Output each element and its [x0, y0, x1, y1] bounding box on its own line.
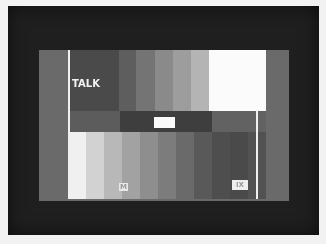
mid-bar-0	[70, 111, 120, 132]
low-bar-6	[176, 132, 194, 199]
low-bar-5	[158, 132, 176, 199]
low-bar-4	[140, 132, 158, 199]
indicator-box-label: IX	[232, 180, 248, 190]
monitor-screen: TALK 1 M IX	[39, 50, 289, 201]
low-bar-1	[86, 132, 104, 199]
low-bar-8	[212, 132, 230, 199]
top-bar-1	[119, 50, 136, 111]
top-bar-3	[155, 50, 173, 111]
low-bar-7	[194, 132, 212, 199]
talk-label: TALK	[72, 78, 100, 89]
channel-one-label: 1	[72, 183, 77, 191]
left-vertical-line	[68, 50, 70, 199]
m-label: M	[119, 183, 128, 191]
center-white-box	[154, 117, 175, 128]
top-bar-6	[209, 50, 266, 111]
top-bar-2	[136, 50, 155, 111]
low-bar-0	[68, 132, 86, 199]
top-bar-4	[173, 50, 191, 111]
right-vertical-line	[256, 111, 258, 199]
top-bar-5	[191, 50, 209, 111]
bezel-markings	[68, 220, 268, 230]
